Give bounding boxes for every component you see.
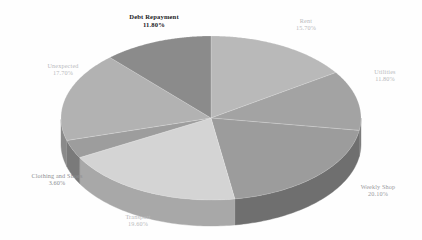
pie-chart: Debt Repayment 11.80% Rent 15.70% Utilit… (0, 0, 422, 240)
pie-chart-canvas (0, 0, 422, 240)
pie-slice-group (61, 36, 361, 200)
